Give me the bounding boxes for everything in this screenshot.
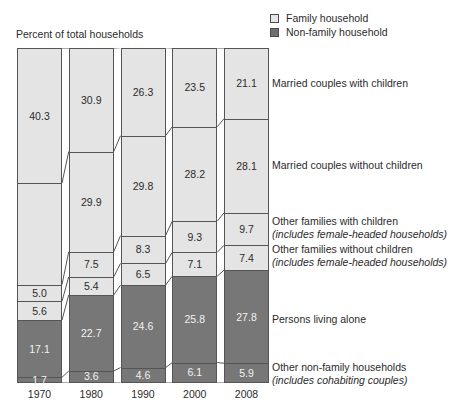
legend-swatch-family-icon bbox=[270, 14, 279, 23]
bar-segment: 25.8 bbox=[172, 276, 217, 362]
x-axis-tick-2000: 2000 bbox=[172, 388, 217, 400]
bar-segment: 6.5 bbox=[121, 263, 166, 285]
bar-segment-value: 6.5 bbox=[136, 269, 151, 280]
bar-segment-value: 7.5 bbox=[84, 259, 99, 270]
bar-segment-value: 30.9 bbox=[81, 95, 101, 106]
category-label-subtext: (includes female-headed households) bbox=[272, 228, 447, 241]
bar-column-2008: 21.128.19.77.427.85.9 bbox=[224, 48, 269, 383]
bar-segment-value: 5.4 bbox=[84, 281, 99, 292]
x-axis-tick-1980: 1980 bbox=[69, 388, 114, 400]
bar-segment: 6.1 bbox=[172, 363, 217, 383]
bar-segment-value: 28.2 bbox=[185, 169, 205, 180]
category-label-subtext: (includes female-headed households) bbox=[272, 256, 447, 269]
bar-segment-value: 26.3 bbox=[133, 87, 153, 98]
bar-segment-value: 9.3 bbox=[187, 232, 202, 243]
legend-swatch-non-family-icon bbox=[270, 28, 279, 37]
bar-segment-value: 7.4 bbox=[239, 253, 254, 264]
bar-segment-value: 5.0 bbox=[32, 288, 47, 299]
chart-legend: Family household Non-family household bbox=[270, 12, 388, 40]
bar-segment: 21.1 bbox=[224, 48, 269, 119]
bar-segment: 22.7 bbox=[69, 295, 114, 371]
bar-segment-value: 29.9 bbox=[81, 197, 101, 208]
bar-segment: 7.4 bbox=[224, 245, 269, 270]
bar-segment: 27.8 bbox=[224, 270, 269, 363]
legend-item-family-household: Family household bbox=[270, 12, 388, 24]
bar-segment-value: 9.7 bbox=[239, 224, 254, 235]
legend-label-family-household: Family household bbox=[286, 13, 368, 24]
bar-segment: 7.5 bbox=[69, 252, 114, 277]
bar-segment-value: 6.1 bbox=[187, 367, 202, 378]
category-label-married-without-children: Married couples without children bbox=[272, 159, 423, 172]
bar-segment: 8.3 bbox=[121, 236, 166, 264]
bar-segment: 26.3 bbox=[121, 48, 166, 136]
bar-segment: 5.0 bbox=[17, 285, 62, 302]
category-label-text: Other non-family households bbox=[272, 361, 406, 373]
category-label-married-with-children: Married couples with children bbox=[272, 77, 408, 90]
bar-column-1970: 40.35.05.617.11.7 bbox=[17, 48, 62, 383]
category-label-subtext: (includes cohabiting couples) bbox=[272, 374, 407, 387]
bar-segment-value: 29.8 bbox=[133, 181, 153, 192]
bar-segment-value: 5.9 bbox=[239, 368, 254, 379]
bar-segment: 40.3 bbox=[17, 48, 62, 183]
category-label-text: Other families without children bbox=[272, 243, 413, 255]
category-label-other-non-family-households: Other non-family households (includes co… bbox=[272, 361, 407, 386]
x-axis-tick-1970: 1970 bbox=[17, 388, 62, 400]
bar-segment-value: 27.8 bbox=[236, 312, 256, 323]
bar-segment: 29.8 bbox=[121, 136, 166, 236]
stacked-bar-chart: Family household Non-family household Pe… bbox=[0, 0, 463, 410]
bar-column-2000: 23.528.29.37.125.86.1 bbox=[172, 48, 217, 383]
bar-segment: 5.9 bbox=[224, 363, 269, 383]
category-label-text: Other families with children bbox=[272, 215, 398, 227]
bar-segment-value: 3.6 bbox=[84, 371, 99, 382]
legend-label-non-family-household: Non-family household bbox=[286, 27, 388, 38]
bar-segment: 30.9 bbox=[69, 48, 114, 152]
category-label-other-families-without-children: Other families without children (include… bbox=[272, 243, 447, 268]
bar-segment-value: 7.1 bbox=[187, 259, 202, 270]
bar-segment-value: 25.8 bbox=[185, 314, 205, 325]
bar-segment bbox=[17, 183, 62, 285]
bar-segment: 5.4 bbox=[69, 277, 114, 295]
bar-segment-value: 5.6 bbox=[32, 306, 47, 317]
x-axis-tick-2008: 2008 bbox=[224, 388, 269, 400]
bar-segment: 5.6 bbox=[17, 301, 62, 320]
y-axis-title: Percent of total households bbox=[16, 28, 143, 40]
bar-segment-value: 21.1 bbox=[236, 78, 256, 89]
category-label-text: Married couples without children bbox=[272, 159, 423, 171]
bar-segment: 28.2 bbox=[172, 127, 217, 221]
bar-segment: 17.1 bbox=[17, 320, 62, 377]
bar-segment-value: 22.7 bbox=[81, 328, 101, 339]
legend-item-non-family-household: Non-family household bbox=[270, 26, 388, 38]
category-label-text: Married couples with children bbox=[272, 77, 408, 89]
bar-segment: 9.7 bbox=[224, 213, 269, 245]
bar-segment-value: 17.1 bbox=[29, 344, 49, 355]
bar-segment-value: 40.3 bbox=[29, 111, 49, 122]
category-label-other-families-with-children: Other families with children (includes f… bbox=[272, 215, 447, 240]
bar-segment: 23.5 bbox=[172, 48, 217, 127]
bar-segment-value: 4.6 bbox=[136, 370, 151, 381]
bar-column-1980: 30.929.97.55.422.73.6 bbox=[69, 48, 114, 383]
bar-segment-value: 8.3 bbox=[136, 244, 151, 255]
bar-segment: 4.6 bbox=[121, 368, 166, 383]
category-label-persons-living-alone: Persons living alone bbox=[272, 313, 366, 326]
bar-segment: 1.7 bbox=[17, 377, 62, 383]
x-axis-labels: 19701980199020002008 bbox=[17, 388, 265, 402]
plot-area: 40.35.05.617.11.730.929.97.55.422.73.626… bbox=[17, 48, 265, 383]
bar-segment: 24.6 bbox=[121, 285, 166, 367]
bar-segment: 29.9 bbox=[69, 152, 114, 252]
bar-segment: 3.6 bbox=[69, 371, 114, 383]
bar-segment-value: 28.1 bbox=[236, 161, 256, 172]
bar-segment: 7.1 bbox=[172, 252, 217, 276]
bar-segment-value: 23.5 bbox=[185, 82, 205, 93]
category-label-text: Persons living alone bbox=[272, 313, 366, 325]
bar-segment-value: 24.6 bbox=[133, 321, 153, 332]
x-axis-tick-1990: 1990 bbox=[121, 388, 166, 400]
bar-segment-value: 1.7 bbox=[32, 375, 47, 386]
bar-segment: 28.1 bbox=[224, 119, 269, 213]
bar-segment: 9.3 bbox=[172, 221, 217, 252]
bar-column-1990: 26.329.88.36.524.64.6 bbox=[121, 48, 166, 383]
